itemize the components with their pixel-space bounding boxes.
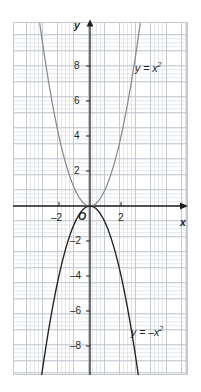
graph-figure: x y O 8 6 4 2 –2 –4 –6 –8 –2 2 y = x2 y … xyxy=(0,0,201,392)
y-tick-label-neg2: –2 xyxy=(70,236,81,246)
curve-label-positive-exponent: 2 xyxy=(157,61,161,68)
y-tick-label-neg8: –8 xyxy=(70,341,81,351)
x-tick-label-2: 2 xyxy=(118,213,124,223)
y-tick-label-4: 4 xyxy=(74,131,80,141)
y-axis xyxy=(87,20,94,376)
x-axis-label: x xyxy=(180,217,186,228)
curve-label-negative: y = –x2 xyxy=(131,325,163,337)
curve-label-positive-base: y = x xyxy=(135,62,157,74)
curve-label-positive: y = x2 xyxy=(135,61,161,73)
y-tick-label-neg4: –4 xyxy=(70,271,81,281)
origin-label: O xyxy=(78,211,86,222)
x-axis xyxy=(13,202,188,209)
curve-label-negative-base: y = –x xyxy=(131,326,159,338)
x-tick-label-neg2: –2 xyxy=(51,213,62,223)
y-tick-label-2: 2 xyxy=(74,166,80,176)
curve-label-negative-exponent: 2 xyxy=(159,325,163,332)
y-tick-label-6: 6 xyxy=(74,96,80,106)
y-tick-label-neg6: –6 xyxy=(70,306,81,316)
graph-svg xyxy=(0,0,201,392)
y-axis-label: y xyxy=(74,20,80,31)
y-tick-label-8: 8 xyxy=(74,61,80,71)
